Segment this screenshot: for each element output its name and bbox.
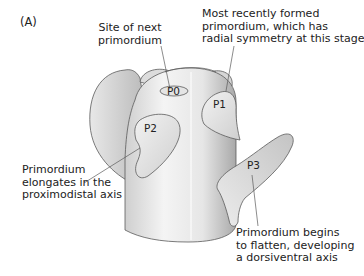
annotation-line: a dorsiventral axis <box>236 252 354 265</box>
annotation-line: proximodistal axis <box>22 189 122 202</box>
annotation-line: Primordium begins <box>236 227 354 240</box>
annotation-line: radial symmetry at this stage <box>202 33 364 46</box>
annotation-line: primordium <box>98 35 162 48</box>
annotation-line: Primordium <box>22 164 122 177</box>
annotation-most-recent: Most recently formed primordium, which h… <box>202 8 364 46</box>
annotation-line: Site of next <box>98 22 162 35</box>
p2-label: P2 <box>144 122 157 134</box>
p1-label: P1 <box>213 98 226 110</box>
p0-label: P0 <box>167 85 180 97</box>
annotation-elongates: Primordium elongates in the proximodista… <box>22 164 122 202</box>
p3-label: P3 <box>247 159 260 171</box>
panel-label: (A) <box>20 16 37 29</box>
annotation-line: Most recently formed <box>202 8 364 21</box>
annotation-flatten: Primordium begins to flatten, developing… <box>236 227 354 265</box>
annotation-site-next: Site of next primordium <box>98 22 162 47</box>
shoot-apex-diagram: (A) P0 P1 P2 P3 Site of next primordium … <box>0 0 364 276</box>
